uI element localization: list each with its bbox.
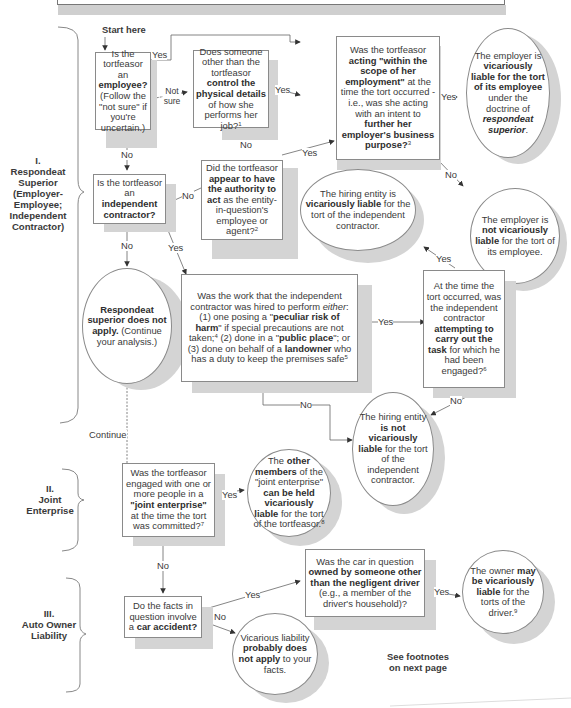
edge-label-no: No: [182, 191, 194, 201]
outcome-no-vicarious-liability: Vicarious liability probably does not ap…: [232, 613, 318, 695]
edge-label-no: No: [121, 241, 133, 251]
edge-label-no: No: [450, 396, 462, 406]
edge-label-yes: Yes: [441, 92, 456, 102]
outcome-owner-liable: The owner may be vicariously liable for …: [462, 550, 544, 634]
edge-label-no: No: [240, 140, 252, 150]
edge-label-no: No: [445, 170, 457, 180]
node-car-owned-other[interactable]: Was the car in question owned by someone…: [305, 549, 425, 617]
edge-label-yes: Yes: [302, 148, 317, 158]
node-apparent-authority[interactable]: Did the tortfeasor appear to have the au…: [201, 160, 283, 240]
section-label-respondeat-superior: I. Respondeat Superior (Employer-Employe…: [0, 155, 76, 232]
edge-label-continue: Continue: [89, 430, 127, 440]
outcome-hiring-entity-not-liable: The hiring entity is not vicariously lia…: [352, 392, 434, 506]
edge-label-no: No: [300, 400, 312, 410]
footnotes-note: See footnotes on next page: [382, 651, 454, 673]
node-work-type[interactable]: Was the work that the independent contra…: [181, 274, 358, 382]
section-label-auto-owner: III. Auto Owner Liability: [14, 608, 84, 641]
edge-label-yes: Yes: [275, 85, 290, 95]
node-is-employee[interactable]: Is the tortfeasor an employee? (Follow t…: [95, 52, 151, 130]
section-label-joint-enterprise: II. Joint Enterprise: [20, 483, 80, 516]
outcome-hiring-entity-liable: The hiring entity is vicariously liable …: [300, 169, 416, 251]
outcome-joint-enterprise-liable: The other members of the "joint enterpri…: [247, 449, 331, 537]
node-scope-of-employment[interactable]: Was the tortfeasor acting "within the sc…: [336, 36, 440, 160]
edge-label-yes: Yes: [245, 590, 260, 600]
edge-label-yes: Yes: [436, 254, 451, 264]
outcome-employer-liable: The employer is vicariously liable for t…: [466, 28, 550, 158]
node-joint-enterprise[interactable]: Was the tortfeasor engaged with one or m…: [122, 463, 215, 537]
node-car-accident[interactable]: Do the facts in question involve a car a…: [124, 596, 202, 638]
edge-label-yes: Yes: [152, 50, 167, 60]
edge-label-yes: Yes: [168, 243, 183, 253]
outcome-rs-not-apply: Respondeat superior does not apply. (Con…: [82, 268, 172, 384]
node-attempting-task[interactable]: At the time the tort occurred, was the i…: [423, 270, 505, 388]
edge-label-not-sure: Not sure: [163, 86, 181, 106]
edge-label-yes: Yes: [222, 490, 237, 500]
edge-label-yes: Yes: [378, 317, 393, 327]
edge-label-no: No: [214, 612, 226, 622]
start-label: Start here: [102, 25, 146, 35]
edge-label-no: No: [121, 150, 133, 160]
node-control-details[interactable]: Does someone other than the tortfeasor c…: [193, 50, 269, 128]
edge-label-yes: Yes: [434, 587, 449, 597]
node-independent-contractor[interactable]: Is the tortfeasor an independent contrac…: [93, 174, 166, 224]
edge-label-no: No: [157, 561, 169, 571]
